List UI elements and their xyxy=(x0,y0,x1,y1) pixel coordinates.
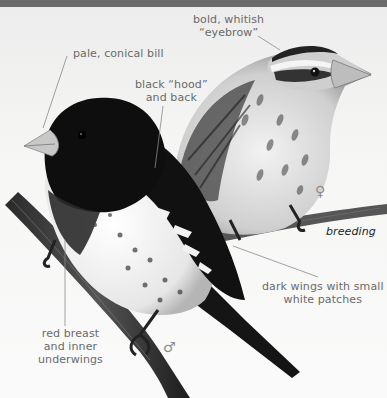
annotation-eyebrow-line2: “eyebrow” xyxy=(193,26,264,39)
annotation-breeding: breeding xyxy=(326,225,376,238)
annotation-breast-line3: underwings xyxy=(38,353,103,366)
annotation-wings: dark wings with small white patches xyxy=(262,280,384,306)
male-symbol-icon: ♂ xyxy=(163,340,176,354)
annotation-breeding-text: breeding xyxy=(326,225,376,238)
annotation-wings-line1: dark wings with small xyxy=(262,280,384,293)
annotation-wings-line2: white patches xyxy=(262,293,384,306)
annotation-bill: pale, conical bill xyxy=(73,47,164,60)
annotation-breast-line2: and inner xyxy=(38,340,103,353)
annotation-bill-text: pale, conical bill xyxy=(73,47,164,60)
annotation-eyebrow: bold, whitish “eyebrow” xyxy=(193,13,264,39)
annotation-hood-line2: and back xyxy=(135,91,208,104)
annotation-breast-line1: red breast xyxy=(38,327,103,340)
annotation-breast: red breast and inner underwings xyxy=(38,327,103,366)
annotation-eyebrow-line1: bold, whitish xyxy=(193,13,264,26)
female-symbol-icon: ♀ xyxy=(315,184,325,198)
annotation-hood-line1: black “hood” xyxy=(135,78,208,91)
annotation-hood: black “hood” and back xyxy=(135,78,208,104)
